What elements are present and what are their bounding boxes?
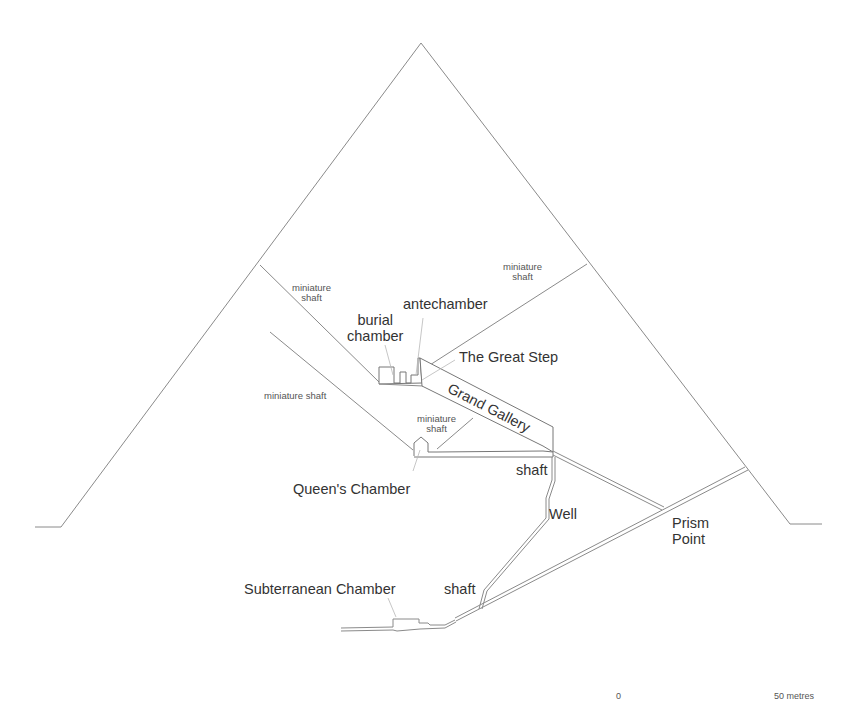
label-shaft-lower: shaft (444, 582, 475, 598)
label-queens-chamber: Queen's Chamber (293, 482, 410, 498)
ascending-passage (553, 451, 664, 510)
label-miniature-shaft-lower-left: miniature shaft (264, 391, 326, 401)
label-miniature-shaft-upper-right: miniature shaft (503, 262, 542, 283)
label-shaft-upper: shaft (516, 463, 547, 479)
label-prism-point: Prism Point (672, 516, 709, 548)
label-subterranean-chamber: Subterranean Chamber (244, 582, 396, 598)
scale-end: 50 metres (774, 692, 814, 702)
label-great-step: The Great Step (459, 350, 558, 366)
label-well: Well (549, 507, 577, 523)
subterranean-chamber-shape (341, 619, 456, 631)
scale-start: 0 (616, 692, 621, 702)
label-antechamber: antechamber (403, 297, 488, 313)
label-miniature-shaft-upper-left: miniature shaft (292, 283, 331, 304)
pyramid-cross-section (0, 0, 853, 705)
label-miniature-shaft-inner: miniature shaft (417, 414, 456, 435)
label-burial-chamber: burial chamber (347, 313, 403, 345)
